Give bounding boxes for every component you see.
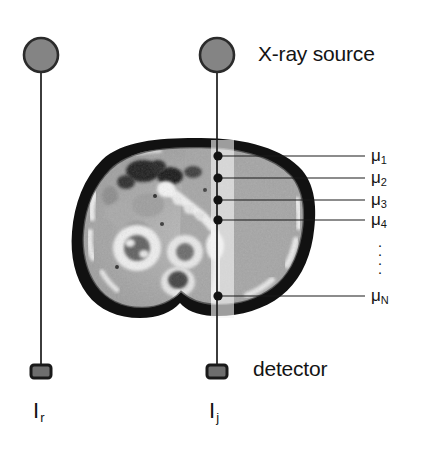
xray-source-object[interactable] — [200, 38, 234, 72]
ct-attenuation-figure: X-ray source detector Ir Ij μ1 μ2 μ3 μ4 … — [0, 0, 425, 449]
xray-beam-band — [211, 140, 234, 318]
mu-subscript-3: 3 — [381, 198, 387, 210]
mu-symbol-4: μ — [371, 210, 381, 229]
voxel-dot-2[interactable] — [213, 173, 222, 182]
mu-subscript-1: 1 — [381, 154, 387, 166]
xray-source-reference[interactable] — [24, 38, 58, 72]
ellipsis-dot-4: · — [375, 267, 385, 276]
mu-label-n: μN — [371, 287, 389, 304]
detector-reference[interactable] — [31, 365, 51, 378]
diagram-canvas — [0, 0, 425, 449]
mu-symbol-n: μ — [371, 286, 381, 305]
voxel-dot-3[interactable] — [213, 195, 222, 204]
mu-subscript-4: 4 — [381, 218, 387, 230]
intensity-symbol-reference: I — [33, 398, 39, 423]
voxel-dot-4[interactable] — [213, 215, 222, 224]
vertical-ellipsis-icon: · · · · — [375, 240, 385, 276]
intensity-subscript-reference: r — [40, 410, 44, 425]
detector-label: detector — [253, 358, 327, 379]
mu-label-3: μ3 — [371, 191, 387, 208]
mu-label-4: μ4 — [371, 211, 387, 228]
intensity-label-object: Ij — [209, 400, 218, 422]
detector-object[interactable] — [207, 365, 227, 378]
intensity-label-reference: Ir — [33, 400, 43, 422]
mu-label-2: μ2 — [371, 169, 387, 186]
intensity-subscript-object: j — [216, 410, 219, 425]
voxel-dot-1[interactable] — [213, 151, 222, 160]
voxel-dot-n[interactable] — [213, 291, 222, 300]
mu-subscript-n: N — [381, 294, 389, 306]
mu-symbol-3: μ — [371, 190, 381, 209]
ct-slice-image — [70, 138, 320, 322]
mu-symbol-1: μ — [371, 146, 381, 165]
mu-symbol-2: μ — [371, 168, 381, 187]
mu-subscript-2: 2 — [381, 176, 387, 188]
xray-source-label: X-ray source — [258, 43, 375, 64]
intensity-symbol-object: I — [209, 398, 215, 423]
mu-label-1: μ1 — [371, 147, 387, 164]
